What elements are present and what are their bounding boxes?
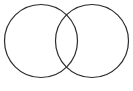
figure-background: [0, 0, 133, 91]
venn-diagram-figure: [0, 0, 133, 91]
venn-diagram-canvas: [0, 0, 133, 91]
